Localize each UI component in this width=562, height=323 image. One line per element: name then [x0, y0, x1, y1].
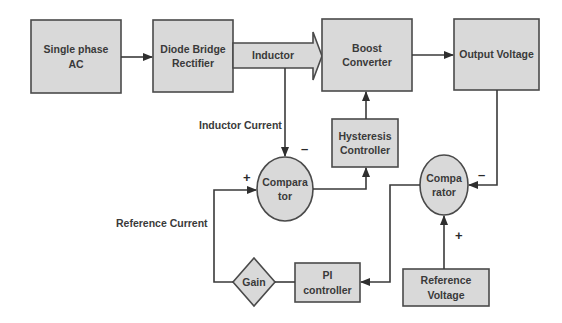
output-voltage-label: Output Voltage — [454, 19, 539, 90]
gain-label: Gain — [233, 270, 275, 294]
pi-controller-label: PI controller — [295, 263, 360, 302]
diode-bridge-label: Diode Bridge Rectifier — [153, 20, 233, 92]
comparator-voltage-label: Compa rator — [420, 155, 468, 215]
inductor-current-label: Inductor Current — [199, 119, 282, 131]
comparator-voltage-minus-sign: – — [478, 167, 485, 182]
inductor-label: Inductor — [238, 43, 308, 68]
comparator-current-label: Compara tor — [257, 157, 313, 221]
comparator-to-pi-arrow — [361, 185, 420, 282]
reference-current-label: Reference Current — [116, 217, 208, 229]
comparator-voltage-plus-sign: + — [455, 228, 463, 243]
reference-voltage-label: Reference Voltage — [403, 269, 489, 306]
hysteresis-controller-label: Hysteresis Controller — [332, 119, 398, 167]
comparator-current-plus-sign: + — [243, 170, 251, 185]
boost-converter-label: Boost Converter — [322, 19, 412, 91]
comparator-to-hysteresis-arrow — [313, 168, 366, 189]
comparator-current-minus-sign: – — [301, 141, 308, 156]
single-phase-ac-label: Single phase AC — [31, 20, 121, 93]
